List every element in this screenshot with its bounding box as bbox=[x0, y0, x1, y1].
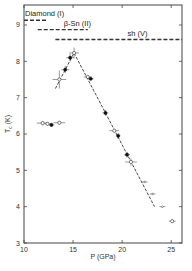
open-marker bbox=[171, 220, 174, 223]
data-point bbox=[159, 206, 165, 208]
x-tick-label: 15 bbox=[69, 246, 77, 253]
open-marker bbox=[72, 51, 75, 54]
small-marker bbox=[144, 181, 146, 183]
data-point bbox=[109, 129, 119, 133]
open-marker bbox=[113, 129, 116, 132]
y-tick-label: 8 bbox=[16, 58, 20, 65]
y-tick-label: 3 bbox=[16, 240, 20, 247]
data-point bbox=[169, 219, 176, 223]
y-tick-label: 9 bbox=[16, 21, 20, 28]
phase-label: β-Sn (II) bbox=[64, 19, 92, 28]
filled-marker bbox=[117, 134, 120, 137]
x-tick-label: 10 bbox=[20, 246, 28, 253]
data-point bbox=[61, 66, 69, 73]
open-marker bbox=[41, 121, 44, 124]
filled-marker bbox=[50, 123, 53, 126]
x-tick-label: 25 bbox=[167, 246, 175, 253]
data-point bbox=[103, 110, 109, 116]
data-point bbox=[53, 121, 65, 125]
filled-marker bbox=[104, 111, 107, 114]
trend-lines bbox=[55, 53, 154, 207]
open-marker bbox=[58, 121, 61, 124]
open-marker bbox=[58, 78, 61, 81]
y-axis-label: Tc (K) bbox=[4, 115, 13, 133]
data-points bbox=[37, 48, 176, 224]
x-tick-label: 20 bbox=[118, 246, 126, 253]
open-marker bbox=[86, 75, 89, 78]
phase-label: Diamond (I) bbox=[25, 9, 65, 18]
tc-vs-pressure-chart: 101520253456789 Diamond (I)β-Sn (II)sh (… bbox=[0, 0, 192, 271]
x-axis-label: P (GPa) bbox=[90, 253, 115, 261]
phase-label: sh (V) bbox=[127, 29, 148, 38]
filled-marker bbox=[64, 68, 67, 71]
data-point bbox=[52, 70, 66, 88]
y-tick-label: 6 bbox=[16, 130, 20, 137]
y-tick-label: 7 bbox=[16, 94, 20, 101]
filled-marker bbox=[69, 56, 72, 59]
filled-marker bbox=[125, 153, 128, 156]
open-marker bbox=[129, 160, 132, 163]
axis-ticks: 101520253456789 bbox=[16, 5, 182, 253]
data-point bbox=[150, 193, 156, 195]
data-point bbox=[124, 152, 130, 158]
y-tick-label: 5 bbox=[16, 167, 20, 174]
data-point bbox=[142, 181, 148, 183]
y-tick-label: 4 bbox=[16, 203, 20, 210]
small-marker bbox=[162, 206, 164, 208]
data-point bbox=[125, 158, 137, 165]
small-marker bbox=[152, 193, 154, 195]
phase-lines: Diamond (I)β-Sn (II)sh (V) bbox=[24, 9, 182, 39]
filled-marker bbox=[89, 77, 92, 80]
